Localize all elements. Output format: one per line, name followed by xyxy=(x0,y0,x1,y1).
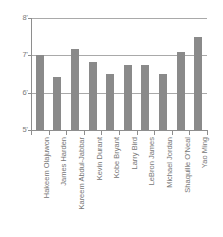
x-axis-label: Michael Jordan xyxy=(166,137,174,188)
x-axis-label: Kevin Durant xyxy=(96,137,104,180)
x-axis-tick-mark xyxy=(154,131,155,135)
x-axis-tick-mark xyxy=(31,131,32,135)
y-axis-tick-label: 6' xyxy=(0,89,28,97)
bar[interactable] xyxy=(124,65,132,130)
x-axis-tick-mark xyxy=(101,131,102,135)
bar[interactable] xyxy=(71,49,79,130)
y-axis-tick: 7' xyxy=(0,51,28,59)
plot-area xyxy=(31,18,207,130)
bar[interactable] xyxy=(141,65,149,130)
bar-slot xyxy=(119,18,137,130)
x-axis-tick-mark xyxy=(207,131,208,135)
y-axis-tick: 6' xyxy=(0,89,28,97)
x-axis-label: Shaquille O'Neal xyxy=(184,137,192,193)
x-axis-label: Kobe Bryant xyxy=(113,137,121,178)
y-axis-tick-label: 8' xyxy=(0,14,28,22)
y-axis-tick-label: 5' xyxy=(0,126,28,134)
bar-slot xyxy=(49,18,67,130)
x-axis-label: Larry Bird xyxy=(131,137,139,170)
y-axis-tick: 8' xyxy=(0,14,28,22)
bar-slot xyxy=(172,18,190,130)
bar[interactable] xyxy=(177,52,185,130)
x-axis-tick-mark xyxy=(172,131,173,135)
y-axis-tick: 5' xyxy=(0,126,28,134)
x-axis-tick-mark xyxy=(66,131,67,135)
x-axis-tick-mark xyxy=(84,131,85,135)
bar[interactable] xyxy=(36,55,44,130)
bar-chart: 5'6'7'8' Hakeem OlajuwonJames HardenKare… xyxy=(0,0,223,237)
y-axis-tick-label: 7' xyxy=(0,51,28,59)
x-axis-tick-mark xyxy=(137,131,138,135)
bar[interactable] xyxy=(106,74,114,130)
x-axis-label: Hakeem Olajuwon xyxy=(43,137,51,198)
x-axis-label: LeBron James xyxy=(148,137,156,185)
bar[interactable] xyxy=(159,74,167,130)
bar-slot xyxy=(137,18,155,130)
bar-slot xyxy=(31,18,49,130)
bar-slot xyxy=(189,18,207,130)
x-axis-label: James Harden xyxy=(60,137,68,186)
bar[interactable] xyxy=(53,77,61,130)
bar[interactable] xyxy=(194,37,202,130)
x-axis-tick-mark xyxy=(189,131,190,135)
x-axis-tick-mark xyxy=(119,131,120,135)
x-axis-tick-mark xyxy=(49,131,50,135)
x-axis-label: Yao Ming xyxy=(201,137,209,168)
bar-slot xyxy=(101,18,119,130)
bar[interactable] xyxy=(89,62,97,130)
bar-slot xyxy=(66,18,84,130)
bar-slot xyxy=(154,18,172,130)
bar-slot xyxy=(84,18,102,130)
x-axis-label: Kareem Abdul-Jabbar xyxy=(78,137,86,210)
